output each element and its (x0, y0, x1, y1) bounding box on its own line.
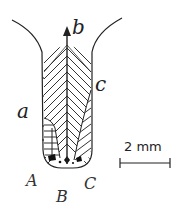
label-c: c (95, 72, 106, 96)
label-a: a (17, 99, 29, 123)
label-C: C (84, 174, 96, 193)
label-b: b (72, 15, 85, 39)
arrow-head-icon (63, 26, 71, 36)
scale-bar-label: 2 mm (124, 139, 162, 154)
label-A: A (24, 171, 38, 190)
diagram-canvas: b c a A B C 2 mm (0, 0, 179, 211)
scale-bar (120, 158, 170, 168)
label-B: B (55, 187, 68, 206)
